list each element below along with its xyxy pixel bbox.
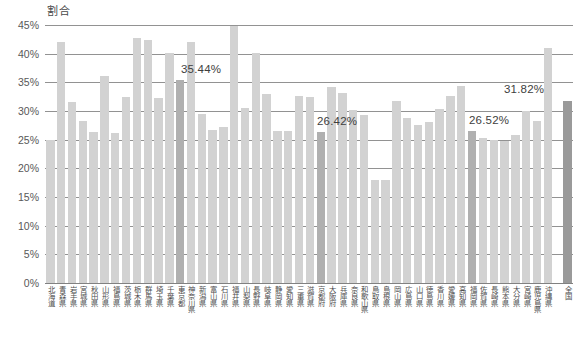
y-tick-label: 45% [0,19,39,31]
bar-slot[interactable] [261,25,272,283]
bar[interactable] [165,53,173,283]
bar[interactable] [252,53,260,283]
bar[interactable] [122,97,130,283]
bar-slot[interactable] [456,25,467,283]
bar[interactable] [360,115,368,283]
bar[interactable] [46,140,54,283]
bar[interactable] [241,108,249,283]
bar[interactable] [68,102,76,283]
y-tick-label: 25% [0,134,39,146]
bar-slot[interactable] [434,25,445,283]
bar-slot[interactable] [562,25,573,283]
bar-slot[interactable] [229,25,240,283]
bar-slot[interactable] [164,25,175,283]
bar-slot[interactable] [56,25,67,283]
bar[interactable] [381,180,389,283]
bar-slot[interactable] [77,25,88,283]
bar[interactable] [295,96,303,283]
bar-slot[interactable] [337,25,348,283]
bar-slot[interactable] [478,25,489,283]
bar[interactable] [273,131,281,284]
bar[interactable] [154,98,162,283]
bar-slot[interactable] [132,25,143,283]
bar[interactable] [100,76,108,283]
bar[interactable] [284,131,292,283]
bar[interactable] [435,109,443,283]
bar[interactable] [230,26,238,283]
bar[interactable] [89,132,97,283]
bar-slot[interactable] [521,25,532,283]
bar[interactable] [414,125,422,283]
x-label-slot: 栃木県 [132,285,143,333]
bar-slot[interactable] [272,25,283,283]
bar[interactable] [533,121,541,283]
bar-slot[interactable] [445,25,456,283]
bar-slot[interactable] [467,25,478,283]
bar[interactable] [392,101,400,283]
bar-slot[interactable] [326,25,337,283]
bar[interactable] [208,130,216,283]
bar[interactable] [563,101,572,283]
bar[interactable] [446,96,454,283]
bar-slot[interactable] [348,25,359,283]
bar-slot[interactable] [283,25,294,283]
bar[interactable] [219,127,227,283]
bar[interactable] [425,122,433,283]
bar[interactable] [176,80,184,283]
bar[interactable] [468,131,476,283]
plot-area: 45%40%35%30%25%20%15%10%5%0% 35.44%26.42… [45,25,573,283]
bar[interactable] [500,141,508,283]
bar-slot[interactable] [67,25,78,283]
bar-slot[interactable] [99,25,110,283]
bar-slot[interactable] [402,25,413,283]
bar-slot[interactable] [240,25,251,283]
x-label-slot: 宮城県 [77,285,88,333]
bar[interactable] [479,138,487,283]
bar-slot[interactable] [391,25,402,283]
bar[interactable] [371,180,379,283]
bar-slot[interactable] [423,25,434,283]
bar-slot[interactable] [88,25,99,283]
bar-slot[interactable] [294,25,305,283]
bar[interactable] [490,140,498,283]
x-label-slot: 福岡県 [467,285,478,333]
bar[interactable] [403,118,411,283]
bar-slot[interactable] [110,25,121,283]
bar[interactable] [349,110,357,283]
bar-slot[interactable] [488,25,499,283]
bar[interactable] [111,133,119,283]
bar-slot[interactable] [250,25,261,283]
bar-slot[interactable] [532,25,543,283]
bar[interactable] [198,114,206,283]
x-tick-label: 青森県 [57,285,65,333]
bar[interactable] [144,40,152,283]
bar-slot[interactable] [45,25,56,283]
x-tick-label: 宮崎県 [522,285,530,333]
bar[interactable] [511,135,519,283]
bar-slot[interactable] [305,25,316,283]
bar[interactable] [317,132,325,283]
bar-slot[interactable] [121,25,132,283]
bar[interactable] [544,48,552,283]
bar-slot[interactable] [499,25,510,283]
bar[interactable] [457,86,465,283]
bar[interactable] [57,42,65,283]
x-tick-label: 岐阜県 [263,285,271,333]
bar[interactable] [522,111,530,283]
bar[interactable] [187,42,195,283]
bar-slot[interactable] [380,25,391,283]
bar[interactable] [133,38,141,283]
bar-slot[interactable] [510,25,521,283]
bar-slot[interactable] [315,25,326,283]
data-label: 26.52% [469,114,509,126]
bar[interactable] [262,94,270,283]
x-tick-label: 大阪府 [328,285,336,333]
bar-slot[interactable] [413,25,424,283]
bar-slot[interactable] [542,25,553,283]
bar-slot[interactable] [142,25,153,283]
bar[interactable] [79,121,87,283]
bar[interactable] [306,97,314,283]
bar-slot[interactable] [369,25,380,283]
bar-slot[interactable] [153,25,164,283]
bar-slot[interactable] [359,25,370,283]
